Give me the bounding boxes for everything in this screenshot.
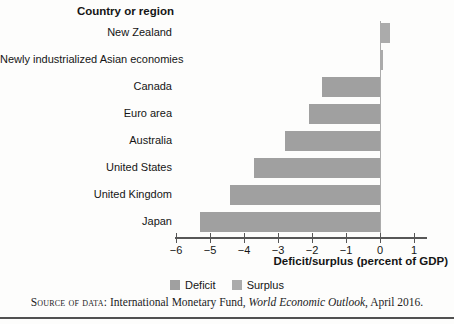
category-label: Canada [0, 73, 172, 100]
deficit-swatch-icon [170, 280, 180, 290]
bottom-rule [0, 317, 454, 319]
deficit-bar [200, 212, 380, 232]
source-prefix: Source of data: [31, 296, 107, 308]
source-body: International Monetary Fund, [107, 296, 248, 308]
category-label: New Zealand [0, 19, 172, 46]
axis-tick [380, 233, 381, 243]
figure-deficit-surplus-chart: Country or region New ZealandNewly indus… [0, 0, 454, 324]
axis-tick [210, 233, 211, 243]
category-label: United States [0, 154, 172, 181]
surplus-bar [380, 50, 383, 70]
axis-tick [244, 233, 245, 243]
category-label: Newly industrialized Asian economies [0, 46, 172, 73]
legend-item-deficit: Deficit [170, 279, 216, 291]
column-header: Country or region [0, 5, 174, 17]
axis-tick-label: −4 [230, 244, 258, 256]
axis-tick [346, 233, 347, 243]
chart-rows: New ZealandNewly industrialized Asian ec… [0, 19, 454, 235]
axis-tick [414, 233, 415, 243]
x-axis-line [175, 237, 427, 239]
deficit-bar [230, 185, 380, 205]
deficit-bar [309, 104, 380, 124]
axis-tick [312, 233, 313, 243]
surplus-swatch-icon [232, 280, 242, 290]
source-suffix: , April 2016. [365, 296, 423, 308]
deficit-bar [254, 158, 380, 178]
category-label: Japan [0, 208, 172, 235]
axis-tick [176, 233, 177, 243]
x-axis-label: Deficit/surplus (percent of GDP) [274, 255, 448, 267]
legend: Deficit Surplus [0, 279, 454, 291]
legend-deficit-label: Deficit [185, 279, 216, 291]
axis-tick [278, 233, 279, 243]
source-italic-title: World Economic Outlook [249, 296, 365, 308]
surplus-bar [380, 23, 390, 43]
legend-item-surplus: Surplus [232, 279, 284, 291]
legend-surplus-label: Surplus [247, 279, 284, 291]
deficit-bar [285, 131, 380, 151]
category-label: Euro area [0, 100, 172, 127]
source-note: Source of data: International Monetary F… [0, 296, 454, 308]
category-label: Australia [0, 127, 172, 154]
deficit-bar [322, 77, 380, 97]
axis-tick-label: −5 [196, 244, 224, 256]
axis-tick-label: −6 [162, 244, 190, 256]
category-label: United Kingdom [0, 181, 172, 208]
